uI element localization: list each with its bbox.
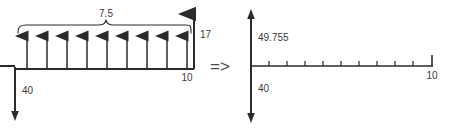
axis-end-label: 10 — [426, 70, 438, 81]
vertical-axis-arrow-down — [247, 113, 255, 123]
lower-axis-label: 40 — [258, 83, 270, 94]
upper-axis-label: 49.755 — [258, 32, 289, 43]
baseline-right-label: 10 — [181, 72, 193, 83]
load-arrow-group — [27, 36, 187, 69]
brace-span — [18, 20, 191, 33]
implication-operator: => — [210, 57, 230, 76]
left-diagram: 7.5 17 10 40 — [0, 8, 212, 121]
right-vertical-label: 17 — [200, 29, 212, 40]
figure-root: 7.5 17 10 40 — [0, 0, 450, 131]
diagram-canvas: 7.5 17 10 40 — [0, 0, 450, 131]
right-diagram: 49.755 40 10 — [247, 9, 438, 123]
brace-label: 7.5 — [99, 8, 113, 19]
left-down-arrowhead — [11, 111, 19, 121]
vertical-axis-arrow-up — [247, 9, 255, 19]
left-vertical-label: 40 — [22, 85, 34, 96]
